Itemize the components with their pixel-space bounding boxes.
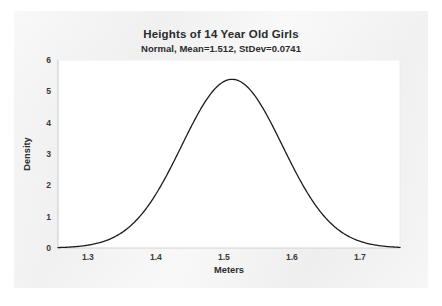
chart-image: Heights of 14 Year Old Girls Normal, Mea… <box>0 0 442 306</box>
x-tick-label-group: 1.31.41.51.61.7 <box>82 252 366 262</box>
y-axis-title: Density <box>22 136 32 170</box>
y-tick-label: 4 <box>46 118 51 128</box>
y-tick-label: 6 <box>46 55 51 65</box>
y-tick-label: 5 <box>46 86 51 96</box>
x-tick-label: 1.5 <box>218 252 230 262</box>
y-tick-label: 3 <box>46 149 51 159</box>
plot-background <box>58 60 400 248</box>
y-tick-label: 1 <box>46 212 51 222</box>
x-tick-label: 1.6 <box>286 252 298 262</box>
x-tick-label: 1.4 <box>150 252 162 262</box>
x-axis-title: Meters <box>214 265 244 275</box>
x-tick-label: 1.7 <box>354 252 366 262</box>
x-tick-label: 1.3 <box>82 252 94 262</box>
chart-panel: Heights of 14 Year Old Girls Normal, Mea… <box>14 11 428 288</box>
y-tick-label: 2 <box>46 180 51 190</box>
y-tick-label-group: 0123456 <box>46 55 51 253</box>
plot-area: 0123456 1.31.41.51.61.7 Density Meters <box>14 11 428 288</box>
y-tick-label: 0 <box>46 243 51 253</box>
